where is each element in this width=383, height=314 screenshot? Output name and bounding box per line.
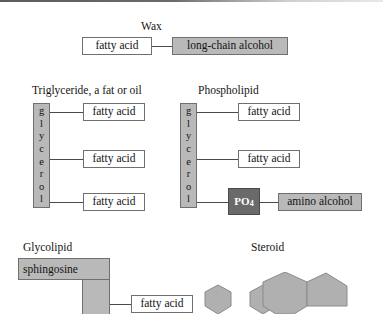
phosphate-subscript: 4 <box>250 200 254 208</box>
wax-section-title: Wax <box>141 20 162 33</box>
phospholipid-connector-2 <box>197 159 238 160</box>
amino-alcohol-node: amino alcohol <box>278 193 362 211</box>
steroid-ring-structure <box>195 272 383 314</box>
sphingosine-node: sphingosine <box>18 258 110 280</box>
phospholipid-fatty-acid-node-1: fatty acid <box>238 103 300 121</box>
glycerol-letter: y <box>186 131 191 142</box>
wax-long-chain-alcohol-node: long-chain alcohol <box>172 37 288 55</box>
glycerol-letter: l <box>40 194 43 205</box>
glycerol-letter: c <box>186 144 191 155</box>
steroid-section-title: Steroid <box>251 241 284 254</box>
lipid-types-diagram: Wax fatty acid long-chain alcohol Trigly… <box>0 0 383 314</box>
triglyceride-fatty-acid-node-2: fatty acid <box>83 150 145 168</box>
glycerol-letter: g <box>39 106 44 117</box>
phosphate-label: PO <box>234 196 249 207</box>
glycerol-letter: l <box>40 119 43 130</box>
triglyceride-section-title: Triglyceride, a fat or oil <box>32 84 142 97</box>
triglyceride-fatty-acid-node-3: fatty acid <box>83 193 145 211</box>
glycerol-letter: y <box>39 131 44 142</box>
triglyceride-connector-2 <box>50 159 83 160</box>
wax-connector-line <box>152 46 172 47</box>
steroid-hexagon-ring-a <box>205 285 231 314</box>
phospholipid-connector-1 <box>197 112 238 113</box>
glycerol-letter: o <box>39 182 44 193</box>
glycolipid-section-title: Glycolipid <box>23 241 72 254</box>
phospholipid-glycerol-node: g l y c e r o l <box>180 103 197 208</box>
triglyceride-connector-3 <box>50 202 83 203</box>
phosphate-group-node: PO4 <box>228 188 260 215</box>
glycerol-letter: o <box>186 182 191 193</box>
phospholipid-section-title: Phospholipid <box>198 84 259 97</box>
glycerol-letter: r <box>187 169 191 180</box>
phospholipid-connector-4 <box>260 202 278 203</box>
top-border-rule <box>0 0 383 2</box>
glycerol-letter: c <box>39 144 44 155</box>
wax-fatty-acid-node: fatty acid <box>82 37 152 55</box>
steroid-pentagon-ring-d <box>307 273 347 306</box>
glycerol-letter: r <box>40 169 44 180</box>
glycerol-letter: e <box>186 157 191 168</box>
glycerol-letter: l <box>187 119 190 130</box>
glycerol-letter: l <box>187 194 190 205</box>
glycolipid-connector-line <box>110 304 131 305</box>
phospholipid-fatty-acid-node-2: fatty acid <box>238 150 300 168</box>
triglyceride-fatty-acid-node-1: fatty acid <box>83 103 145 121</box>
triglyceride-glycerol-node: g l y c e r o l <box>33 103 50 208</box>
phospholipid-connector-3 <box>197 202 228 203</box>
steroid-hexagon-ring-c <box>263 272 307 314</box>
triglyceride-connector-1 <box>50 112 83 113</box>
glycerol-letter: e <box>39 157 44 168</box>
glycerol-letter: g <box>186 106 191 117</box>
sphingosine-stem <box>82 275 110 314</box>
glycolipid-fatty-acid-node: fatty acid <box>131 295 193 313</box>
